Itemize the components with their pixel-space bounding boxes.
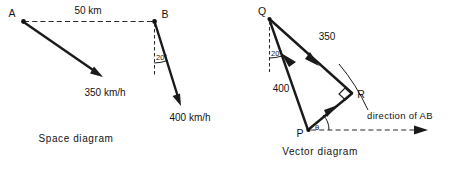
point-r-label: R [357, 88, 365, 100]
point-q-dot [267, 17, 271, 21]
direction-of-ab-label: direction of AB [367, 110, 433, 121]
point-p-label: P [296, 127, 303, 139]
figure-root: A B 50 km 350 km/h 400 km/h 20° Space di… [0, 0, 452, 171]
space-diagram-group: A B 50 km 350 km/h 400 km/h 20° Space di… [8, 5, 210, 144]
point-q-label: Q [258, 5, 266, 17]
locus-arc-through-r [339, 64, 368, 110]
vector-pq-label: 400 [273, 83, 290, 94]
point-b-label: B [161, 8, 168, 20]
vector-diagram-group: 350 400 Q P R 20° direc [258, 5, 433, 157]
diagram-canvas: A B 50 km 350 km/h 400 km/h 20° Space di… [0, 0, 452, 171]
angle-at-q-label: 20° [271, 49, 282, 58]
point-p-dot [306, 128, 310, 132]
point-a-label: A [8, 7, 15, 19]
angle-at-p-label: θ [315, 123, 319, 132]
space-baseline-label: 50 km [74, 5, 101, 16]
space-diagram-caption: Space diagram [38, 133, 113, 144]
vector-400-arrowhead [173, 94, 182, 107]
direction-of-ab-arrowhead [414, 126, 428, 135]
vector-350-label: 350 km/h [84, 87, 125, 98]
vector-qr-label: 350 [319, 31, 336, 42]
vector-350-shaft [25, 23, 96, 72]
angle-at-b-label: 20° [156, 53, 167, 62]
vector-diagram-caption: Vector diagram [282, 146, 358, 157]
vector-400-label: 400 km/h [169, 112, 210, 123]
